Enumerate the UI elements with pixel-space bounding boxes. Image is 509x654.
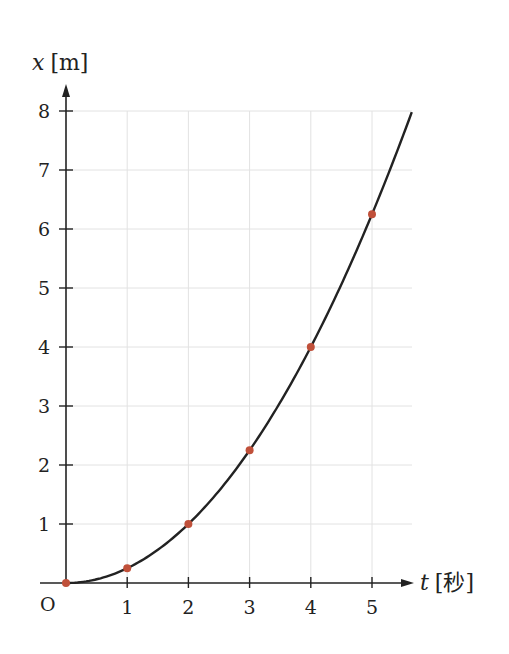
x-tick-label: 1 bbox=[121, 596, 133, 618]
data-point bbox=[246, 446, 254, 454]
ticks bbox=[59, 111, 372, 588]
data-point bbox=[62, 579, 70, 587]
x-tick-label: 2 bbox=[182, 596, 194, 618]
y-tick-label: 7 bbox=[38, 159, 50, 181]
y-tick-label: 6 bbox=[38, 218, 50, 240]
y-axis-unit: [m] bbox=[50, 50, 88, 75]
x-axis-arrow-icon bbox=[401, 579, 414, 587]
data-point bbox=[307, 343, 315, 351]
y-axis-title: x[m] bbox=[32, 50, 88, 75]
grid-lines bbox=[66, 111, 412, 583]
axes bbox=[40, 84, 414, 587]
curve-line bbox=[66, 112, 412, 583]
y-tick-label: 1 bbox=[38, 513, 50, 535]
svg-text:t[秒]: t[秒] bbox=[420, 570, 474, 595]
data-point bbox=[184, 520, 192, 528]
data-point bbox=[368, 210, 376, 218]
y-tick-label: 4 bbox=[38, 336, 50, 358]
y-tick-label: 5 bbox=[38, 277, 50, 299]
x-tick-label: 3 bbox=[244, 596, 256, 618]
origin-label: O bbox=[40, 593, 56, 615]
tick-labels: 1234512345678 bbox=[38, 100, 378, 618]
data-point bbox=[123, 564, 131, 572]
x-axis-var: t bbox=[420, 570, 429, 595]
y-axis-arrow-icon bbox=[62, 84, 70, 97]
y-axis-var: x bbox=[32, 50, 45, 75]
x-axis-unit: [秒] bbox=[435, 570, 474, 595]
y-tick-label: 8 bbox=[38, 100, 50, 122]
y-tick-label: 2 bbox=[38, 454, 50, 476]
x-tick-label: 4 bbox=[305, 596, 317, 618]
x-axis-title: t[秒] bbox=[420, 570, 474, 595]
x-tick-label: 5 bbox=[366, 596, 378, 618]
data-points bbox=[62, 210, 376, 587]
y-tick-label: 3 bbox=[38, 395, 50, 417]
svg-text:x[m]: x[m] bbox=[32, 50, 88, 75]
chart: 1234512345678 O x[m] t[秒] bbox=[0, 0, 509, 654]
